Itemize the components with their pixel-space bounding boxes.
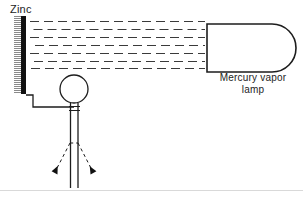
divergence-line-left — [55, 143, 70, 172]
electroscope-knob — [60, 75, 88, 103]
zinc-plate — [21, 16, 26, 94]
uv-light-rays — [30, 22, 205, 69]
photoelectric-effect-diagram: Zinc Mercury vaporlamp — [0, 0, 303, 198]
mercury-vapor-lamp-label: Mercury vaporlamp — [207, 72, 299, 96]
leaf-divergence-indicators — [55, 143, 93, 172]
lamp-label-line2: lamp — [242, 84, 264, 95]
wall-hatching — [14, 17, 21, 93]
zinc-label: Zinc — [10, 3, 32, 16]
electroscope-leaves — [71, 103, 79, 188]
diagram-canvas — [0, 0, 303, 198]
lamp-label-line1: Mercury vapor — [220, 72, 287, 83]
divergence-line-right — [78, 143, 93, 172]
mercury-vapor-lamp — [207, 24, 296, 72]
